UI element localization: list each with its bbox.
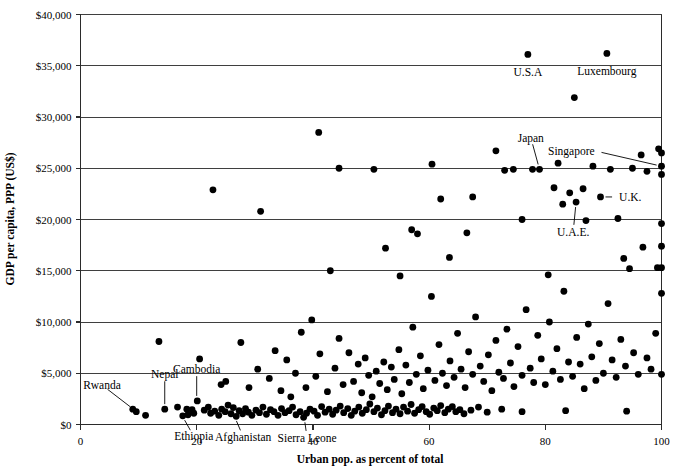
data-point [580,185,587,192]
data-point [404,408,411,415]
leader-line-singapore [602,152,657,165]
data-point [315,129,322,136]
data-point [142,412,149,419]
data-point [573,334,580,341]
annotation-label-u-k-: U.K. [619,191,641,203]
data-point [385,403,392,410]
data-point [652,330,659,337]
data-point [529,166,536,173]
data-point [362,354,369,361]
data-point [507,360,514,367]
x-tick-label-0: 0 [78,435,84,447]
data-point [371,166,378,173]
data-point [417,352,424,359]
data-point [527,365,534,372]
data-point [583,217,590,224]
data-point [413,371,420,378]
data-point [222,378,229,385]
data-point [559,201,566,208]
data-point [303,384,310,391]
data-point [161,406,168,413]
data-point [275,412,282,419]
data-point [536,166,543,173]
data-point [620,255,627,262]
x-axis-tick-labels: 020406080100 [78,435,671,447]
data-point [439,370,446,377]
country-annotation-labels: U.S.ALuxembourgJapanSingaporeU.K.U.A.E.R… [83,65,641,444]
annotation-label-ethiopia: Ethiopia [174,430,213,443]
data-point [469,194,476,201]
data-point [484,409,491,416]
data-point [463,229,470,236]
data-point [588,353,595,360]
data-point [519,216,526,223]
data-point [215,412,222,419]
data-point [196,356,203,363]
data-point [397,410,404,417]
y-tick-label-0: $0 [61,419,73,431]
data-point [581,385,588,392]
data-point [480,378,487,385]
data-point [477,363,484,370]
data-point [380,359,387,366]
data-point [406,379,413,386]
data-point [312,373,319,380]
data-point [257,208,264,215]
data-point [538,356,545,363]
data-point [644,354,651,361]
data-point [336,335,343,342]
data-point [562,407,569,414]
data-point [414,230,421,237]
data-point [644,168,651,175]
data-point [585,321,592,328]
y-tick-label-5000: $5,000 [41,367,72,379]
data-point [551,184,558,191]
data-point [622,363,629,370]
data-point [318,403,325,410]
data-point [355,404,362,411]
data-point [308,317,315,324]
data-point [428,293,435,300]
leader-line-sierra-leone [305,422,306,431]
data-point [437,402,444,409]
data-point [607,166,614,173]
data-point [573,199,580,206]
data-point [461,410,468,417]
data-point [493,147,500,154]
data-point [230,404,237,411]
data-point [549,368,556,375]
data-point [388,364,395,371]
data-point [314,412,321,419]
data-point [174,404,181,411]
data-point [600,370,607,377]
data-point [205,404,212,411]
data-point [432,377,439,384]
annotation-label-japan: Japan [518,132,544,145]
data-point [332,365,339,372]
data-point [654,264,661,271]
scatter-plot-canvas: $0$5,000$10,000$15,000$20,000$25,000$30,… [0,0,677,475]
data-point [395,346,402,353]
data-point [336,165,343,172]
data-point [488,387,495,394]
data-point [289,404,296,411]
data-point [504,326,511,333]
data-point [210,186,217,193]
data-point [500,375,507,382]
data-point [246,384,253,391]
data-point [298,329,305,336]
data-point [446,254,453,261]
data-point [272,347,279,354]
data-point [283,357,290,364]
data-point [429,161,436,168]
data-point [534,332,541,339]
data-point [545,271,552,278]
data-point [420,385,427,392]
annotation-label-u-s-a: U.S.A [513,66,542,78]
data-point [658,220,665,227]
data-point [465,348,472,355]
axis-ticks [76,15,662,430]
y-tick-label-25000: $25,000 [36,162,72,174]
data-point [555,160,562,167]
data-point [592,377,599,384]
